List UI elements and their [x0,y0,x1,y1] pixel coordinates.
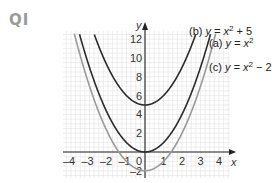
label-a: (a) y = x2 [209,36,254,49]
x-tick-label: 3 [198,155,204,167]
x-tick-label: –3 [82,155,94,167]
y-tick-label: 10 [130,52,142,64]
x-tick-label: –4 [63,155,75,167]
x-tick-label: –2 [100,155,112,167]
y-tick-label: 8 [136,71,142,83]
x-axis-label: x [230,156,237,168]
x-tick-label: –1 [119,155,131,167]
parabola-graph: xy–4–3–2–101234–224681012 (b) y = x2 + 5… [0,0,272,183]
y-axis-arrow-icon [142,22,148,30]
x-axis-arrow-icon [229,149,236,155]
label-c: (c) y = x2 − 2 [209,60,272,73]
y-tick-label: 12 [130,33,142,45]
x-tick-label: 4 [216,155,222,167]
y-tick-label: 2 [136,127,142,139]
y-tick-label: 6 [136,90,142,102]
y-axis-label: y [135,19,143,31]
x-tick-label: 2 [179,155,185,167]
label-b: (b) y = x2 + 5 [189,24,252,37]
y-tick-label: 4 [136,108,142,120]
